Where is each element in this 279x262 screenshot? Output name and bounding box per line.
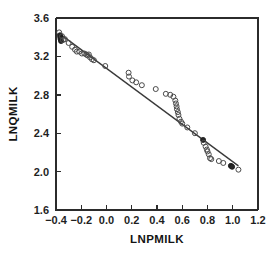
y-axis-tick-labels: 1.62.02.42.83.23.6	[34, 12, 50, 216]
data-point	[153, 87, 158, 92]
y-tick-label: 2.4	[34, 127, 50, 139]
plot-canvas: −0.4−0.20.00.20.40.60.81.01.2 1.62.02.42…	[0, 0, 279, 262]
x-tick-label: 0.2	[124, 214, 139, 226]
x-tick-label: 0.0	[99, 214, 114, 226]
data-points	[57, 30, 241, 172]
data-point	[236, 167, 241, 172]
data-point	[230, 164, 235, 169]
plot-frame	[56, 18, 258, 210]
scatter-plot-figure: −0.4−0.20.00.20.40.60.81.01.2 1.62.02.42…	[0, 0, 279, 262]
x-axis-tick-labels: −0.4−0.20.00.20.40.60.81.01.2	[45, 214, 266, 226]
y-tick-label: 1.6	[34, 204, 49, 216]
x-tick-label: 0.6	[175, 214, 190, 226]
y-tick-label: 3.6	[34, 12, 49, 24]
y-tick-label: 3.2	[34, 50, 49, 62]
x-tick-label: 1.0	[225, 214, 240, 226]
data-point	[139, 83, 144, 88]
x-tick-label: 0.4	[149, 214, 165, 226]
x-tick-label: 1.2	[250, 214, 265, 226]
y-axis-title: LNQMILK	[7, 86, 19, 141]
y-tick-label: 2.8	[34, 89, 49, 101]
data-point	[70, 44, 75, 49]
x-tick-label: −0.2	[70, 214, 92, 226]
y-tick-label: 2.0	[34, 166, 49, 178]
data-point	[221, 160, 226, 165]
x-axis-title: LNPMILK	[130, 233, 184, 245]
x-tick-label: 0.8	[200, 214, 215, 226]
